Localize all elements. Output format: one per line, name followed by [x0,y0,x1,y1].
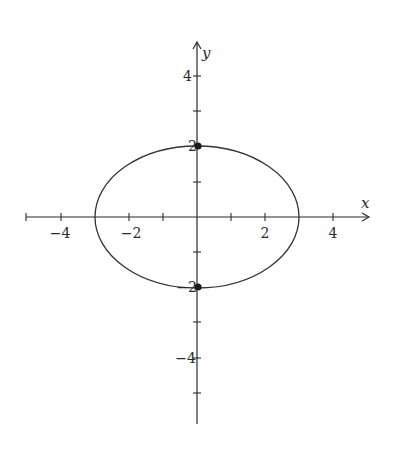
y-tick-label: −4 [175,350,196,366]
y-axis-label: y [201,44,211,62]
y-tick-label: 2 [188,138,197,154]
x-axis-label: x [361,194,370,212]
x-tick-label: 4 [329,225,338,241]
x-tick-label: 2 [261,225,270,241]
ellipse-graph: x y −4 −2 2 4 4 2 −2 −4 [0,0,396,449]
y-tick-label: 4 [183,68,192,84]
x-tick-label: −4 [50,225,71,241]
y-tick-label: −2 [176,279,197,295]
y-axis [193,42,201,424]
x-tick-label: −2 [121,225,142,241]
